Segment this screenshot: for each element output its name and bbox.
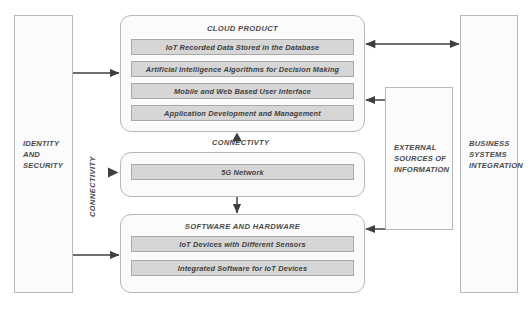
- diagram-canvas: IDENTITY AND SECURITY CONNECTIVITY CLOUD…: [0, 0, 532, 311]
- connector-arrows: [0, 0, 532, 311]
- arrowhead-network-to-cloud: [232, 133, 242, 142]
- arrowhead-connectivity-to-network: [108, 168, 119, 178]
